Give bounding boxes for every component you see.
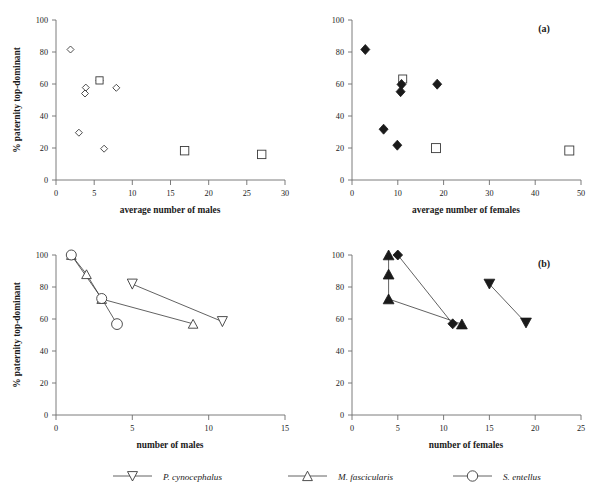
y-tick-label: 60 [40, 315, 48, 324]
data-point-triangle-up [82, 270, 92, 279]
figure-legend: P. cynocephalus M. fascicularis S. entel… [0, 462, 596, 492]
y-tick-group: 100 80 60 40 20 0 [332, 16, 352, 185]
data-point-triangle-up [383, 269, 394, 279]
legend-item-p-cynocephalus[interactable]: P. cynocephalus [113, 472, 222, 482]
y-tick-label: 40 [336, 112, 344, 121]
y-tick-label: 0 [44, 176, 48, 185]
x-tick-label: 15 [166, 189, 174, 198]
legend-label: M. fascicularis [337, 472, 394, 482]
y-tick-group: 100 80 60 40 20 0 [36, 16, 56, 185]
data-point-triangle-up [188, 319, 198, 328]
data-point-square [432, 144, 441, 153]
data-point-diamond [379, 124, 388, 134]
y-tick-label: 0 [340, 411, 344, 420]
x-tick-label: 15 [281, 424, 289, 433]
x-tick-label: 5 [92, 189, 96, 198]
x-tick-label: 10 [394, 189, 402, 198]
legend-item-s-entellus[interactable]: S. entellus [453, 471, 541, 482]
y-tick-label: 20 [40, 379, 48, 388]
x-tick-label: 0 [54, 189, 58, 198]
x-tick-label: 20 [440, 189, 448, 198]
y-tick-label: 80 [40, 283, 48, 292]
y-tick-label: 80 [40, 48, 48, 57]
legend-item-m-fascicularis[interactable]: M. fascicularis [288, 471, 394, 481]
data-point-square [565, 146, 574, 155]
series-line-s-entellus [71, 255, 117, 324]
panel-tag-b: (b) [538, 258, 550, 270]
y-tick-label: 80 [336, 283, 344, 292]
x-tick-label: 25 [577, 424, 585, 433]
data-point-triangle-down [484, 279, 495, 289]
chart-svg-b-females: 100 80 60 40 20 0 0 5 10 15 20 25 [296, 241, 596, 466]
y-tick-label: 0 [44, 411, 48, 420]
y-tick-label: 20 [336, 144, 344, 153]
y-tick-label: 40 [40, 112, 48, 121]
series-line-p-cynocephalus [489, 284, 526, 323]
series-line-s-entellus [398, 255, 453, 324]
y-tick-label: 100 [332, 16, 344, 25]
data-point-diamond [67, 46, 74, 53]
data-point-diamond [113, 84, 120, 91]
data-point-circle [97, 294, 107, 304]
series-open-diamond [67, 46, 120, 152]
panel-tag-a: (a) [538, 23, 550, 35]
data-point-triangle-up [457, 319, 468, 329]
y-tick-group: 100 80 60 40 20 0 [36, 251, 56, 420]
y-tick-label: 20 [40, 144, 48, 153]
data-point-diamond [393, 140, 402, 150]
x-tick-label: 15 [485, 424, 493, 433]
x-axis-title: number of females [429, 440, 504, 450]
data-point-triangle-down [521, 318, 532, 328]
data-point-square [180, 147, 188, 155]
data-point-circle [112, 319, 123, 330]
data-point-square [96, 77, 103, 84]
x-tick-label: 25 [243, 189, 251, 198]
series-filled-diamond [361, 45, 442, 151]
data-point-triangle-down [127, 279, 137, 289]
legend-label: P. cynocephalus [162, 472, 222, 482]
chart-svg-a-males: 100 80 60 40 20 0 0 5 10 15 20 [0, 6, 300, 236]
chart-panel-b-females: 100 80 60 40 20 0 0 5 10 15 20 25 [296, 241, 596, 466]
figure-canvas: 100 80 60 40 20 0 0 5 10 15 20 [0, 0, 596, 499]
legend-label: S. entellus [503, 472, 541, 482]
x-tick-group: 0 5 10 15 [54, 415, 289, 433]
y-tick-label: 60 [336, 315, 344, 324]
chart-svg-b-males: 100 80 60 40 20 0 0 5 10 15 [0, 241, 300, 466]
y-tick-label: 20 [336, 379, 344, 388]
y-tick-label: 60 [40, 80, 48, 89]
y-axis-title: % paternity top-dominant [12, 281, 22, 388]
y-tick-label: 40 [40, 347, 48, 356]
x-tick-label: 20 [531, 424, 539, 433]
series-line-p-cynocephalus [132, 284, 222, 322]
x-tick-label: 5 [396, 424, 400, 433]
x-tick-label: 20 [205, 189, 213, 198]
x-tick-label: 0 [54, 424, 58, 433]
x-tick-label: 5 [130, 424, 134, 433]
chart-panel-b-males: 100 80 60 40 20 0 0 5 10 15 [0, 241, 300, 466]
x-tick-label: 0 [350, 424, 354, 433]
y-tick-group: 100 80 60 40 20 0 [332, 251, 352, 420]
data-point-diamond [393, 250, 403, 260]
x-tick-label: 10 [205, 424, 213, 433]
x-tick-group: 0 5 10 15 20 25 [350, 415, 585, 433]
data-point-circle [66, 250, 76, 260]
data-point-diamond [82, 84, 89, 91]
y-tick-label: 100 [332, 251, 344, 260]
y-tick-label: 40 [336, 347, 344, 356]
data-point-diamond [361, 45, 370, 55]
data-point-diamond [82, 90, 89, 97]
circle-open-icon [467, 471, 477, 481]
x-axis-title: average number of males [120, 205, 221, 215]
series-open-square [399, 75, 574, 155]
x-tick-label: 0 [350, 189, 354, 198]
x-tick-group: 0 5 10 15 20 25 30 [54, 180, 289, 198]
data-point-diamond [101, 145, 108, 152]
x-tick-label: 40 [531, 189, 539, 198]
y-axis-title: % paternity top-dominant [12, 46, 22, 153]
data-point-diamond [433, 79, 442, 89]
data-point-diamond [75, 129, 82, 136]
y-tick-label: 100 [36, 16, 48, 25]
data-point-diamond [448, 319, 458, 329]
x-tick-label: 10 [440, 424, 448, 433]
y-tick-label: 100 [36, 251, 48, 260]
